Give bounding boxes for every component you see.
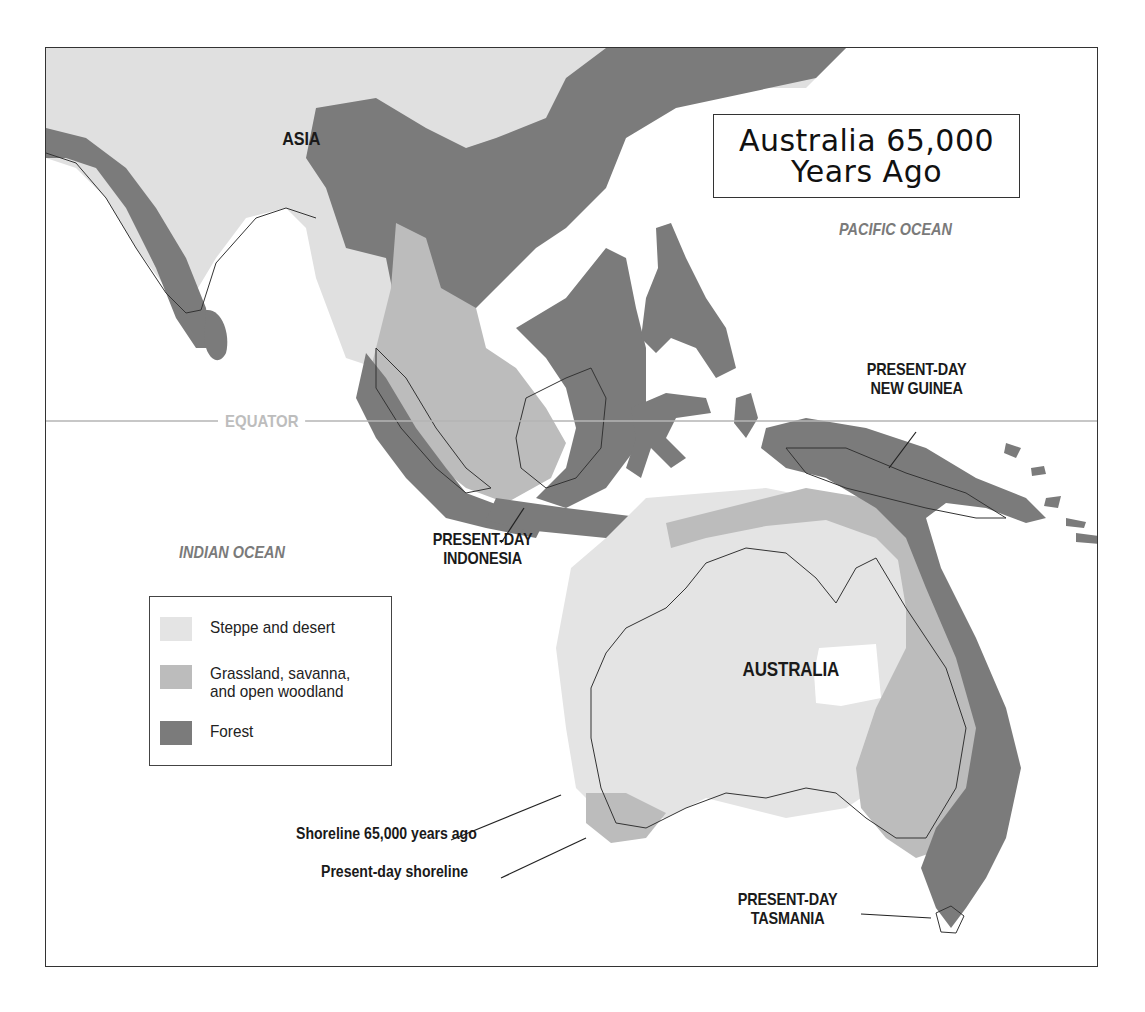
leader-present-shoreline	[501, 838, 586, 878]
label-indonesia: PRESENT-DAY INDONESIA	[433, 530, 533, 568]
halmahera-forest	[734, 393, 758, 438]
label-indonesia-line2: INDONESIA	[433, 549, 533, 568]
map-title-line1: Australia 65,000	[739, 125, 994, 157]
label-tasmania-line1: PRESENT-DAY	[738, 890, 838, 909]
label-pacific-ocean: PACIFIC OCEAN	[839, 220, 952, 240]
label-tasmania: PRESENT-DAY TASMANIA	[738, 890, 838, 928]
pacific-island-4	[1076, 533, 1098, 544]
legend-label-forest: Forest	[210, 723, 253, 741]
legend-item-forest: Forest	[160, 721, 258, 745]
swatch-forest	[160, 721, 192, 745]
label-equator: EQUATOR	[218, 412, 306, 432]
legend-label-steppe: Steppe and desert	[210, 619, 335, 637]
label-new-guinea: PRESENT-DAY NEW GUINEA	[867, 360, 967, 398]
srilanka-forest	[204, 310, 227, 360]
pacific-island-1	[1044, 496, 1061, 508]
legend-item-steppe: Steppe and desert	[160, 617, 349, 641]
legend-label-grassland: Grassland, savanna, and open woodland	[210, 665, 366, 701]
map-title-box: Australia 65,000 Years Ago	[713, 114, 1020, 198]
pacific-island-2	[1031, 466, 1046, 476]
pacific-island-3	[1066, 518, 1086, 528]
label-new-guinea-line1: PRESENT-DAY	[867, 360, 967, 379]
map-frame: ASIA Australia 65,000 Years Ago PACIFIC …	[45, 47, 1098, 967]
legend-label-grassland-line1: Grassland, savanna,	[210, 665, 350, 683]
label-present-shoreline: Present-day shoreline	[321, 863, 468, 881]
map-title-line2: Years Ago	[791, 156, 942, 188]
philippines-forest-region	[641, 223, 736, 378]
label-tasmania-line2: TASMANIA	[738, 909, 838, 928]
legend-label-grassland-line2: and open woodland	[210, 683, 350, 701]
swatch-steppe	[160, 617, 192, 641]
label-new-guinea-line2: NEW GUINEA	[867, 379, 967, 398]
swatch-grassland	[160, 665, 192, 689]
map-legend: Steppe and desert Grassland, savanna, an…	[149, 596, 392, 766]
legend-item-grassland: Grassland, savanna, and open woodland	[160, 665, 366, 701]
sulawesi-forest-region	[626, 393, 711, 478]
label-indonesia-line1: PRESENT-DAY	[433, 530, 533, 549]
leader-tasmania	[861, 914, 931, 918]
pacific-island-5	[1004, 443, 1021, 458]
label-asia: ASIA	[282, 128, 320, 149]
label-shoreline-65000: Shoreline 65,000 years ago	[296, 825, 477, 843]
label-australia: AUSTRALIA	[743, 658, 840, 680]
label-indian-ocean: INDIAN OCEAN	[179, 543, 285, 563]
